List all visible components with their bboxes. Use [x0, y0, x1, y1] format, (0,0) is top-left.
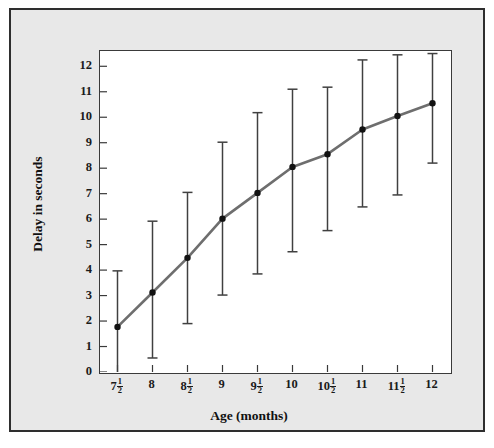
x-tick-whole: 8 — [148, 377, 154, 391]
x-tick-fraction: 12 — [330, 378, 335, 395]
y-tick-label: 4 — [70, 263, 92, 275]
y-tick-label: 11 — [70, 85, 92, 97]
x-tick-label: 1112 — [377, 378, 417, 395]
data-point-marker — [114, 324, 120, 330]
y-tick-label: 7 — [70, 187, 92, 199]
fraction-denominator: 2 — [330, 387, 335, 395]
plot-svg — [100, 51, 450, 372]
figure-frame: 0123456789101112 71288129912101012111112… — [9, 8, 485, 432]
data-point-marker — [184, 255, 190, 261]
error-bar — [323, 87, 333, 230]
x-tick-whole: 11 — [356, 377, 368, 391]
fraction-denominator: 2 — [187, 387, 192, 395]
y-tick-label: 9 — [70, 136, 92, 148]
x-tick-whole: 10 — [285, 377, 298, 391]
y-tick-label: 5 — [70, 238, 92, 250]
x-tick-label: 10 — [272, 378, 312, 391]
data-point-marker — [289, 164, 295, 170]
x-tick-whole: 8 — [181, 379, 187, 393]
fraction-denominator: 2 — [257, 387, 262, 395]
x-tick-fraction: 12 — [187, 378, 192, 395]
x-axis-title: Age (months) — [11, 408, 487, 424]
error-bar — [113, 271, 123, 372]
x-tick-fraction: 12 — [117, 378, 122, 395]
x-tick-label: 8 — [132, 378, 172, 391]
plot-area — [99, 50, 452, 374]
data-point-marker — [394, 113, 400, 119]
x-tick-label: 12 — [412, 378, 452, 391]
data-point-marker — [324, 151, 330, 157]
error-bar — [393, 55, 403, 195]
x-tick-whole: 10 — [317, 379, 330, 393]
y-tick-label: 3 — [70, 289, 92, 301]
x-tick-whole: 7 — [111, 379, 117, 393]
data-point-marker — [219, 215, 225, 221]
x-tick-label: 9 — [202, 378, 242, 391]
x-tick-fraction: 12 — [400, 378, 405, 395]
data-point-marker — [149, 289, 155, 295]
x-tick-label: 712 — [97, 378, 137, 395]
x-tick-label: 1012 — [307, 378, 347, 395]
error-bar — [428, 54, 438, 164]
x-tick-whole: 11 — [388, 379, 400, 393]
y-tick-label: 8 — [70, 161, 92, 173]
data-point-marker — [254, 190, 260, 196]
data-point-marker — [429, 100, 435, 106]
y-tick-label: 0 — [70, 365, 92, 377]
y-tick-label: 2 — [70, 314, 92, 326]
x-tick-whole: 12 — [425, 377, 438, 391]
x-tick-whole: 9 — [251, 379, 257, 393]
y-axis-title: Delay in seconds — [30, 114, 46, 294]
fraction-denominator: 2 — [117, 387, 122, 395]
x-tick-whole: 9 — [218, 377, 224, 391]
data-line — [118, 103, 433, 327]
x-tick-fraction: 12 — [257, 378, 262, 395]
y-tick-label: 6 — [70, 212, 92, 224]
y-tick-label: 12 — [70, 59, 92, 71]
y-tick-label: 1 — [70, 340, 92, 352]
data-point-marker — [359, 126, 365, 132]
fraction-denominator: 2 — [400, 387, 405, 395]
x-tick-label: 812 — [167, 378, 207, 395]
x-tick-label: 11 — [342, 378, 382, 391]
x-tick-label: 912 — [237, 378, 277, 395]
y-tick-label: 10 — [70, 110, 92, 122]
